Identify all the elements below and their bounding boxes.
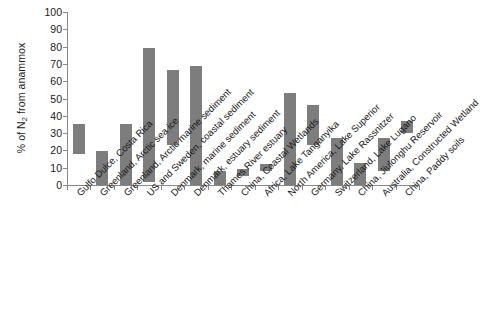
x-tick-label: Australia, Constructed Wetland xyxy=(380,98,480,198)
